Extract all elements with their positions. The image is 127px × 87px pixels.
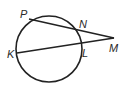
secant-k-m <box>17 38 114 53</box>
label-k: K <box>7 48 15 60</box>
circle <box>16 16 82 82</box>
secant-p-m <box>29 19 114 38</box>
label-n: N <box>79 18 87 30</box>
geometry-diagram: P N M K L <box>0 0 127 87</box>
label-l: L <box>82 47 88 59</box>
label-p: P <box>20 8 28 20</box>
label-m: M <box>109 42 119 54</box>
